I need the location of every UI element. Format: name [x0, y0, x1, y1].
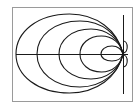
- loop-5: [101, 46, 123, 61]
- diagram-canvas: [0, 0, 140, 108]
- field-diagram: [0, 0, 140, 108]
- loop-1: [16, 14, 123, 93]
- field-loops: [16, 14, 123, 93]
